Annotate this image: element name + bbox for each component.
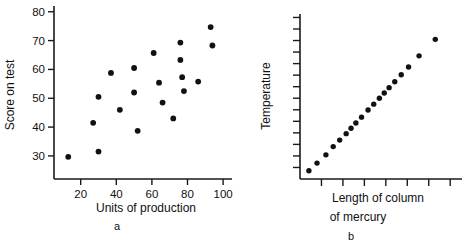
data-point bbox=[399, 72, 404, 77]
data-point bbox=[96, 94, 102, 100]
data-point bbox=[131, 90, 137, 96]
y-tick-label-a: 70 bbox=[32, 35, 45, 47]
data-point bbox=[416, 53, 421, 58]
figure-container: Score on test 304050607080 20406080100 U… bbox=[0, 0, 468, 246]
data-point bbox=[135, 128, 141, 134]
data-point bbox=[314, 160, 319, 165]
data-point bbox=[131, 65, 137, 71]
data-point bbox=[177, 40, 183, 46]
x-ticks-a: 20406080100 bbox=[74, 179, 232, 200]
data-point bbox=[151, 50, 157, 56]
data-point bbox=[156, 80, 162, 86]
scatter-chart-b: Temperature Length of column of mercury bbox=[234, 0, 468, 232]
data-point bbox=[108, 70, 114, 76]
y-tick-label-a: 80 bbox=[32, 6, 45, 18]
data-point bbox=[377, 96, 382, 101]
data-point bbox=[179, 74, 185, 80]
x-ticks-b bbox=[321, 179, 450, 186]
data-point bbox=[306, 168, 311, 173]
data-points-b bbox=[306, 37, 438, 174]
data-point bbox=[96, 149, 102, 155]
panel-caption-a: a bbox=[0, 220, 234, 232]
y-axis-label-a: Score on test bbox=[3, 59, 17, 130]
data-point bbox=[177, 57, 183, 63]
data-point bbox=[90, 120, 96, 126]
x-tick-label-a: 100 bbox=[214, 188, 233, 200]
data-point bbox=[371, 101, 376, 106]
panel-caption-b: b bbox=[234, 230, 468, 242]
y-axis-label-b: Temperature bbox=[259, 62, 273, 130]
data-point bbox=[365, 107, 370, 112]
y-tick-label-a: 40 bbox=[32, 121, 45, 133]
data-point bbox=[353, 120, 358, 125]
data-point bbox=[382, 90, 387, 95]
y-ticks-b bbox=[293, 17, 300, 167]
data-point bbox=[170, 116, 176, 122]
data-point bbox=[195, 79, 201, 85]
data-point bbox=[117, 107, 123, 113]
data-point bbox=[433, 37, 438, 42]
x-tick-label-a: 60 bbox=[146, 188, 159, 200]
x-axis-label-b-line1: Length of column bbox=[332, 191, 424, 205]
data-point bbox=[348, 126, 353, 131]
scatter-chart-a: Score on test 304050607080 20406080100 U… bbox=[0, 0, 234, 232]
data-point bbox=[210, 43, 216, 49]
x-axis-label-a: Units of production bbox=[96, 201, 196, 215]
y-tick-label-a: 50 bbox=[32, 92, 45, 104]
data-point bbox=[65, 154, 71, 160]
panel-b: Temperature Length of column of mercury … bbox=[234, 0, 468, 246]
data-point bbox=[160, 100, 166, 106]
data-point bbox=[323, 152, 328, 157]
x-tick-label-a: 80 bbox=[181, 188, 194, 200]
y-tick-label-a: 30 bbox=[32, 150, 45, 162]
data-point bbox=[359, 114, 364, 119]
x-tick-label-a: 20 bbox=[74, 188, 87, 200]
y-tick-label-a: 60 bbox=[32, 63, 45, 75]
data-point bbox=[208, 24, 214, 30]
axis-lines-a bbox=[54, 6, 232, 179]
data-point bbox=[343, 131, 348, 136]
data-points-a bbox=[65, 24, 215, 160]
data-point bbox=[406, 64, 411, 69]
data-point bbox=[181, 88, 187, 94]
panel-a: Score on test 304050607080 20406080100 U… bbox=[0, 0, 234, 246]
data-point bbox=[337, 137, 342, 142]
data-point bbox=[392, 79, 397, 84]
data-point bbox=[386, 85, 391, 90]
data-point bbox=[331, 144, 336, 149]
y-ticks-a: 304050607080 bbox=[32, 6, 54, 162]
x-axis-label-b-line2: of mercury bbox=[330, 210, 387, 224]
x-tick-label-a: 40 bbox=[110, 188, 123, 200]
